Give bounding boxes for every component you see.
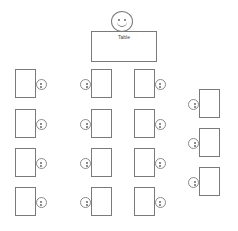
student-face-icon [155, 197, 166, 208]
student-face-icon [188, 138, 199, 149]
student-desk [134, 148, 155, 177]
student-face-icon [80, 79, 91, 90]
student-face-icon [155, 79, 166, 90]
student-desk [91, 148, 112, 177]
student-face-icon [80, 119, 91, 130]
student-face-icon [80, 197, 91, 208]
student-face-icon [188, 99, 199, 110]
student-desk [15, 69, 36, 98]
student-face-icon [36, 197, 47, 208]
teacher-mouth-icon [117, 21, 127, 27]
teacher-smiley-icon [111, 11, 133, 32]
student-face-icon [36, 158, 47, 169]
student-desk [134, 109, 155, 138]
student-desk [15, 148, 36, 177]
student-face-icon [36, 119, 47, 130]
student-desk [91, 69, 112, 98]
student-desk [199, 167, 220, 196]
student-face-icon [80, 158, 91, 169]
student-desk [91, 187, 112, 216]
student-desk [91, 109, 112, 138]
student-desk [199, 128, 220, 157]
student-desk [134, 69, 155, 98]
student-face-icon [155, 119, 166, 130]
student-face-icon [36, 79, 47, 90]
student-desk [199, 89, 220, 118]
student-desk [15, 187, 36, 216]
student-face-icon [155, 158, 166, 169]
student-face-icon [188, 177, 199, 188]
teacher-desk-label: Table [91, 34, 157, 40]
student-desk [134, 187, 155, 216]
student-desk [15, 109, 36, 138]
